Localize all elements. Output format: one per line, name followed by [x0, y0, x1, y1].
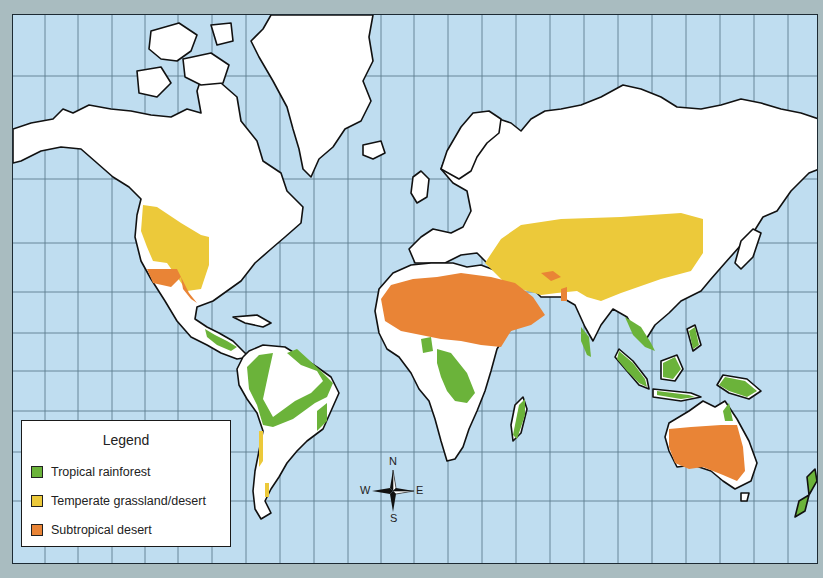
legend-item-temperate-grassland: Temperate grassland/desert [31, 486, 230, 515]
sumatra-rainforest [617, 351, 647, 387]
compass-south: S [390, 512, 397, 524]
swatch-subtropical-desert [31, 524, 43, 536]
legend-label: Temperate grassland/desert [51, 494, 206, 508]
iceland [363, 141, 385, 159]
british-isles [411, 171, 429, 203]
legend-label: Subtropical desert [51, 523, 152, 537]
compass-north: N [389, 455, 397, 467]
compass-rose: N E S W [348, 446, 438, 536]
legend: Legend Tropical rainforest Temperate gra… [21, 420, 231, 547]
map-frame: Legend Tropical rainforest Temperate gra… [12, 14, 818, 564]
swatch-tropical-rainforest [31, 466, 43, 478]
legend-title: Legend [22, 432, 230, 448]
cuba [233, 315, 271, 327]
swatch-temperate-grassland [31, 495, 43, 507]
legend-item-subtropical-desert: Subtropical desert [31, 515, 230, 544]
australia-desert [669, 425, 745, 481]
tasmania [741, 493, 749, 501]
compass-west: W [360, 484, 370, 496]
compass-east: E [416, 484, 423, 496]
greenland [251, 15, 373, 177]
new-guinea-rainforest [719, 377, 757, 397]
new-zealand [795, 469, 817, 517]
legend-item-tropical-rainforest: Tropical rainforest [31, 457, 230, 486]
legend-label: Tropical rainforest [51, 465, 151, 479]
